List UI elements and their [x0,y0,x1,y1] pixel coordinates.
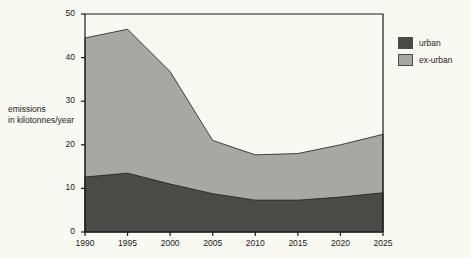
x-tick-label: 2005 [198,238,228,248]
legend-item-ex-urban: ex-urban [398,53,453,67]
y-axis-label: emissions in kilotonnes/year [8,104,74,126]
legend-item-urban: urban [398,36,453,50]
y-tick-label: 50 [53,8,75,18]
y-axis-label-line1: emissions [8,104,74,115]
legend-label: ex-urban [419,55,453,65]
x-tick-label: 2010 [240,238,270,248]
y-tick-label: 40 [53,52,75,62]
x-tick-label: 2025 [368,238,398,248]
x-axis-ticks [85,232,383,236]
legend-swatch-icon [398,54,413,66]
y-tick-label: 30 [53,95,75,105]
chart-legend: urbanex-urban [398,36,453,70]
x-tick-label: 2000 [155,238,185,248]
legend-swatch-icon [398,37,413,49]
x-tick-label: 1990 [70,238,100,248]
y-tick-label: 10 [53,182,75,192]
x-tick-label: 1995 [113,238,143,248]
y-tick-label: 20 [53,139,75,149]
legend-label: urban [419,38,441,48]
area-chart-figure: emissions in kilotonnes/year urbanex-urb… [0,0,471,258]
x-tick-label: 2015 [283,238,313,248]
x-tick-label: 2020 [325,238,355,248]
y-axis-label-line2: in kilotonnes/year [8,115,74,126]
y-tick-label: 0 [53,226,75,236]
